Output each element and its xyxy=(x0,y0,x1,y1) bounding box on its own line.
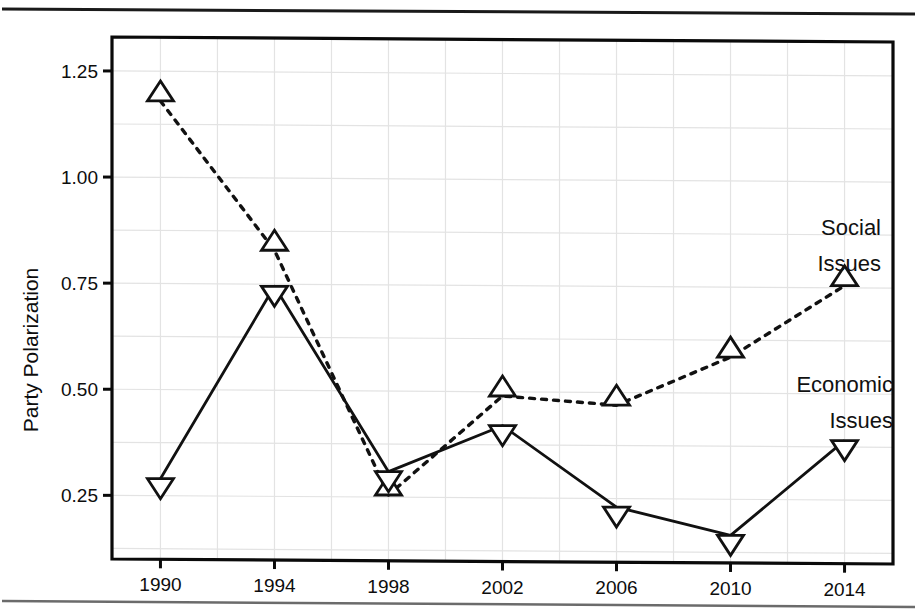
x-tick-label: 2002 xyxy=(481,577,523,598)
economic-issues-annotation-line2: Issues xyxy=(829,408,893,433)
x-tick-label: 1998 xyxy=(367,576,409,597)
economic-issues-annotation-line1: Economic xyxy=(796,372,893,397)
y-tick-label: 0.50 xyxy=(61,379,98,400)
chart-figure: 0.250.500.751.001.25 1990199419982002200… xyxy=(0,0,917,616)
party-polarization-line-chart: 0.250.500.751.001.25 1990199419982002200… xyxy=(0,0,917,616)
social-issues-annotation-line2: Issues xyxy=(817,251,881,276)
x-tick-label: 2006 xyxy=(595,577,637,598)
y-axis-title: Party Polarization xyxy=(19,268,42,433)
x-tick-label: 2014 xyxy=(823,579,866,600)
chart-background xyxy=(0,0,917,616)
y-tick-label: 1.00 xyxy=(61,167,98,188)
x-tick-label: 1990 xyxy=(139,574,181,595)
y-tick-label: 0.75 xyxy=(61,273,98,294)
social-issues-annotation-line1: Social xyxy=(821,215,881,240)
y-tick-label: 0.25 xyxy=(61,485,98,506)
x-tick-label: 1994 xyxy=(253,575,296,596)
x-tick-label: 2010 xyxy=(709,578,751,599)
y-tick-label: 1.25 xyxy=(61,61,98,82)
